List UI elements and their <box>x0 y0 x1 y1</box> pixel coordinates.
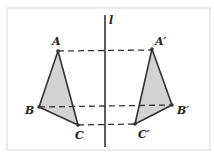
label-a: A <box>51 35 61 48</box>
axis-label-l: l <box>109 14 113 27</box>
reflection-diagram: l A B C A′ B′ C′ <box>0 0 214 156</box>
point-a <box>56 49 60 53</box>
diagram-frame <box>7 8 210 150</box>
label-a-prime: A′ <box>154 35 167 48</box>
label-b: B <box>24 104 34 117</box>
point-b-prime <box>170 103 174 107</box>
label-c-prime: C′ <box>138 128 150 141</box>
label-c: C <box>75 129 84 142</box>
label-b-prime: B′ <box>176 104 189 117</box>
point-b <box>37 105 41 109</box>
point-c <box>76 123 80 127</box>
point-a-prime <box>150 47 154 51</box>
point-c-prime <box>133 122 137 126</box>
